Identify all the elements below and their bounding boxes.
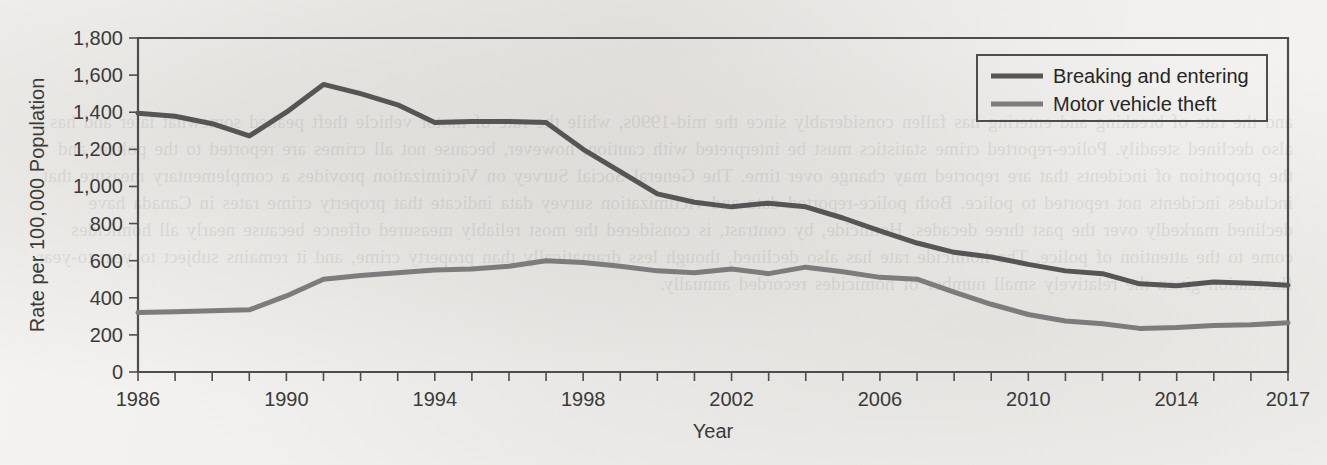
- x-tick-label: 1994: [413, 388, 458, 410]
- y-tick-label: 1,200: [73, 138, 123, 160]
- x-axis-tick-labels: 198619901994199820022006201020142017: [116, 388, 1311, 410]
- y-tick-label: 800: [90, 213, 123, 235]
- chart-container: 198619901994199820022006201020142017 020…: [0, 0, 1327, 465]
- x-tick-label: 2017: [1266, 388, 1311, 410]
- x-tick-label: 2010: [1006, 388, 1051, 410]
- y-tick-label: 400: [90, 287, 123, 309]
- x-tick-label: 1986: [116, 388, 161, 410]
- x-axis-ticks: [138, 372, 1288, 381]
- y-tick-label: 1,000: [73, 175, 123, 197]
- x-tick-label: 1990: [264, 388, 309, 410]
- y-tick-label: 600: [90, 250, 123, 272]
- x-axis-title: Year: [693, 420, 734, 442]
- x-tick-label: 1998: [561, 388, 606, 410]
- y-tick-label: 0: [112, 361, 123, 383]
- x-tick-label: 2014: [1154, 388, 1199, 410]
- y-tick-label: 1,800: [73, 27, 123, 49]
- legend-label-1: Motor vehicle theft: [1053, 93, 1217, 115]
- y-axis-ticks: [129, 38, 138, 372]
- y-tick-label: 1,600: [73, 64, 123, 86]
- chart-legend: Breaking and enteringMotor vehicle theft: [977, 55, 1267, 121]
- y-axis-tick-labels: 02004006008001,0001,2001,4001,6001,800: [73, 27, 123, 383]
- y-axis-title: Rate per 100,000 Population: [26, 78, 48, 333]
- y-tick-label: 200: [90, 324, 123, 346]
- line-chart: 198619901994199820022006201020142017 020…: [0, 0, 1327, 465]
- legend-label-0: Breaking and entering: [1053, 65, 1249, 87]
- series-line-1: [138, 261, 1288, 329]
- x-tick-label: 2006: [858, 388, 903, 410]
- y-tick-label: 1,400: [73, 101, 123, 123]
- x-tick-label: 2002: [709, 388, 754, 410]
